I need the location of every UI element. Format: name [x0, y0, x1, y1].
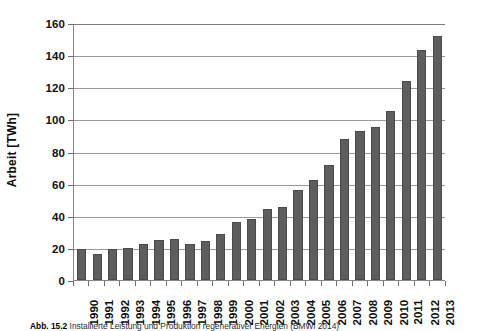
bar: [340, 139, 349, 280]
bar-cell: [105, 24, 120, 280]
bar: [93, 254, 102, 281]
x-axis-label-cell: 2009: [368, 286, 384, 320]
bar: [108, 249, 117, 280]
bar-cell: [414, 24, 429, 280]
x-axis-label-cell: 1993: [120, 286, 136, 320]
y-axis-tick-label: 0: [59, 275, 66, 287]
bar: [355, 131, 364, 280]
x-axis-label-cell: 2005: [306, 286, 322, 320]
bar-cell: [136, 24, 151, 280]
bar: [309, 180, 318, 280]
bar-cell: [337, 24, 352, 280]
bar: [263, 209, 272, 280]
bar-cell: [198, 24, 213, 280]
x-axis-label-cell: 2001: [244, 286, 260, 320]
y-axis-tick-label: 140: [46, 50, 66, 62]
bar: [170, 239, 179, 280]
bar: [278, 207, 287, 280]
bar-cell: [182, 24, 197, 280]
x-axis-label-cell: 1996: [166, 286, 182, 320]
bar-cell: [368, 24, 383, 280]
x-axis-label-cell: 2006: [321, 286, 337, 320]
x-axis-label-cell: 2012: [414, 286, 430, 320]
y-axis-tick-label: 40: [52, 211, 65, 223]
y-axis-tick-label: 100: [46, 114, 66, 126]
bar-cell: [306, 24, 321, 280]
bar: [154, 240, 163, 280]
x-axis-label-cell: 2003: [275, 286, 291, 320]
bar-cell: [151, 24, 166, 280]
bar: [216, 234, 225, 280]
x-axis-label-cell: 1990: [73, 286, 89, 320]
bar-cell: [275, 24, 290, 280]
figure-container: Arbeit [TWh] 020406080100120140160 19901…: [0, 0, 500, 331]
x-axis-label-cell: 2010: [383, 286, 399, 320]
bar-cell: [383, 24, 398, 280]
bar: [433, 36, 442, 280]
x-axis-label-cell: 1992: [104, 286, 120, 320]
caption-number: Abb. 15.2: [30, 321, 67, 331]
x-axis-label-cell: 2011: [399, 286, 415, 320]
x-axis-label-cell: 1999: [213, 286, 229, 320]
bar-cell: [120, 24, 135, 280]
bar-cell: [399, 24, 414, 280]
y-axis-title: Arbeit [TWh]: [5, 113, 19, 187]
plot-area: 020406080100120140160: [73, 24, 445, 281]
bar: [201, 241, 210, 280]
y-axis-tick-label: 20: [52, 243, 65, 255]
x-axis-label-cell: 1994: [135, 286, 151, 320]
bar: [232, 222, 241, 280]
x-axis-label-cell: 2004: [290, 286, 306, 320]
y-axis-tick-label: 60: [52, 179, 65, 191]
bar-cell: [352, 24, 367, 280]
x-axis-label-cell: 2013: [430, 286, 446, 320]
bar: [386, 111, 395, 280]
bar: [324, 165, 333, 280]
bar-cell: [290, 24, 305, 280]
x-axis-label-cell: 1995: [151, 286, 167, 320]
bar: [417, 50, 426, 280]
bar: [185, 244, 194, 280]
x-axis-label-cell: 1998: [197, 286, 213, 320]
bar-series: [74, 24, 445, 280]
x-axis-label-cell: 2000: [228, 286, 244, 320]
figure-caption: Abb. 15.2 Installierte Leistung und Prod…: [30, 321, 496, 331]
bar: [123, 248, 132, 280]
x-axis-label-cell: 1991: [89, 286, 105, 320]
bar-cell: [321, 24, 336, 280]
y-axis-tick-label: 80: [52, 147, 65, 159]
x-axis-label-cell: 2008: [352, 286, 368, 320]
bar-cell: [167, 24, 182, 280]
bar-cell: [89, 24, 104, 280]
bar: [371, 127, 380, 280]
bar-cell: [259, 24, 274, 280]
y-axis-tick-label: 120: [46, 82, 66, 94]
y-axis-tick-label: 160: [46, 18, 66, 30]
bar-cell: [429, 24, 444, 280]
bar: [247, 219, 256, 280]
bar: [402, 81, 411, 280]
x-axis-label-cell: 2007: [337, 286, 353, 320]
x-axis-label-cell: 2002: [259, 286, 275, 320]
bar: [293, 190, 302, 280]
caption-text: Installierte Leistung und Produktion reg…: [70, 321, 340, 331]
x-axis-label-cell: 1997: [182, 286, 198, 320]
bar: [139, 244, 148, 280]
bar: [77, 249, 86, 280]
bar-cell: [74, 24, 89, 280]
bar-cell: [244, 24, 259, 280]
bar-cell: [213, 24, 228, 280]
x-axis-labels: 1990199119921993199419951996199719981999…: [73, 286, 445, 320]
bar-cell: [229, 24, 244, 280]
